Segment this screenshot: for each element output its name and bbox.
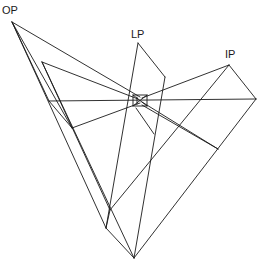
ip-left-edge xyxy=(110,65,229,210)
ray-op-box xyxy=(12,22,140,97)
ray-b-r xyxy=(49,99,256,101)
op-rays xyxy=(12,22,256,228)
edge-a-bottom xyxy=(42,62,134,258)
edge-e-bottom xyxy=(106,228,134,258)
ip-right-edge xyxy=(229,65,256,99)
edge-f-e xyxy=(106,210,110,228)
ip-bottom-edge xyxy=(134,99,256,258)
ray-op-c xyxy=(12,22,72,128)
bottom-edges xyxy=(42,62,134,258)
label-op: OP xyxy=(2,4,18,16)
ip-plane xyxy=(110,65,256,258)
edge-b-c xyxy=(49,101,72,128)
ray-c-box xyxy=(72,103,140,128)
projection-diagram: OP LP IP xyxy=(0,0,264,267)
lp-left-edge xyxy=(106,43,138,228)
edge-op-e xyxy=(12,22,106,228)
lp-plane xyxy=(106,43,165,258)
label-ip: IP xyxy=(225,48,235,60)
label-lp: LP xyxy=(131,28,144,40)
lp-top-edge xyxy=(138,43,165,77)
lp-inner-ray xyxy=(136,108,154,134)
lp-right-edge xyxy=(134,77,165,258)
